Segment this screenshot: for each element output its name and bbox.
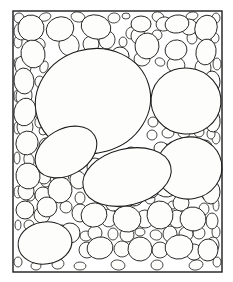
grain-outline — [206, 213, 218, 229]
grain-outline — [151, 260, 163, 270]
grain-packing-illustration — [0, 0, 233, 282]
grain-outline — [213, 58, 221, 70]
grain-outline — [75, 192, 85, 204]
grain-outline — [16, 201, 34, 219]
grain-outline — [122, 13, 130, 19]
grain-outline — [15, 220, 21, 230]
grain-outline — [131, 16, 151, 32]
grain-outline — [119, 37, 127, 47]
grain-packing-figure — [0, 0, 233, 282]
grain-outline — [74, 262, 86, 270]
grain-outline — [108, 228, 118, 240]
grain-outline — [14, 152, 20, 164]
grain-outline — [14, 257, 22, 267]
grain-outline — [147, 130, 157, 140]
